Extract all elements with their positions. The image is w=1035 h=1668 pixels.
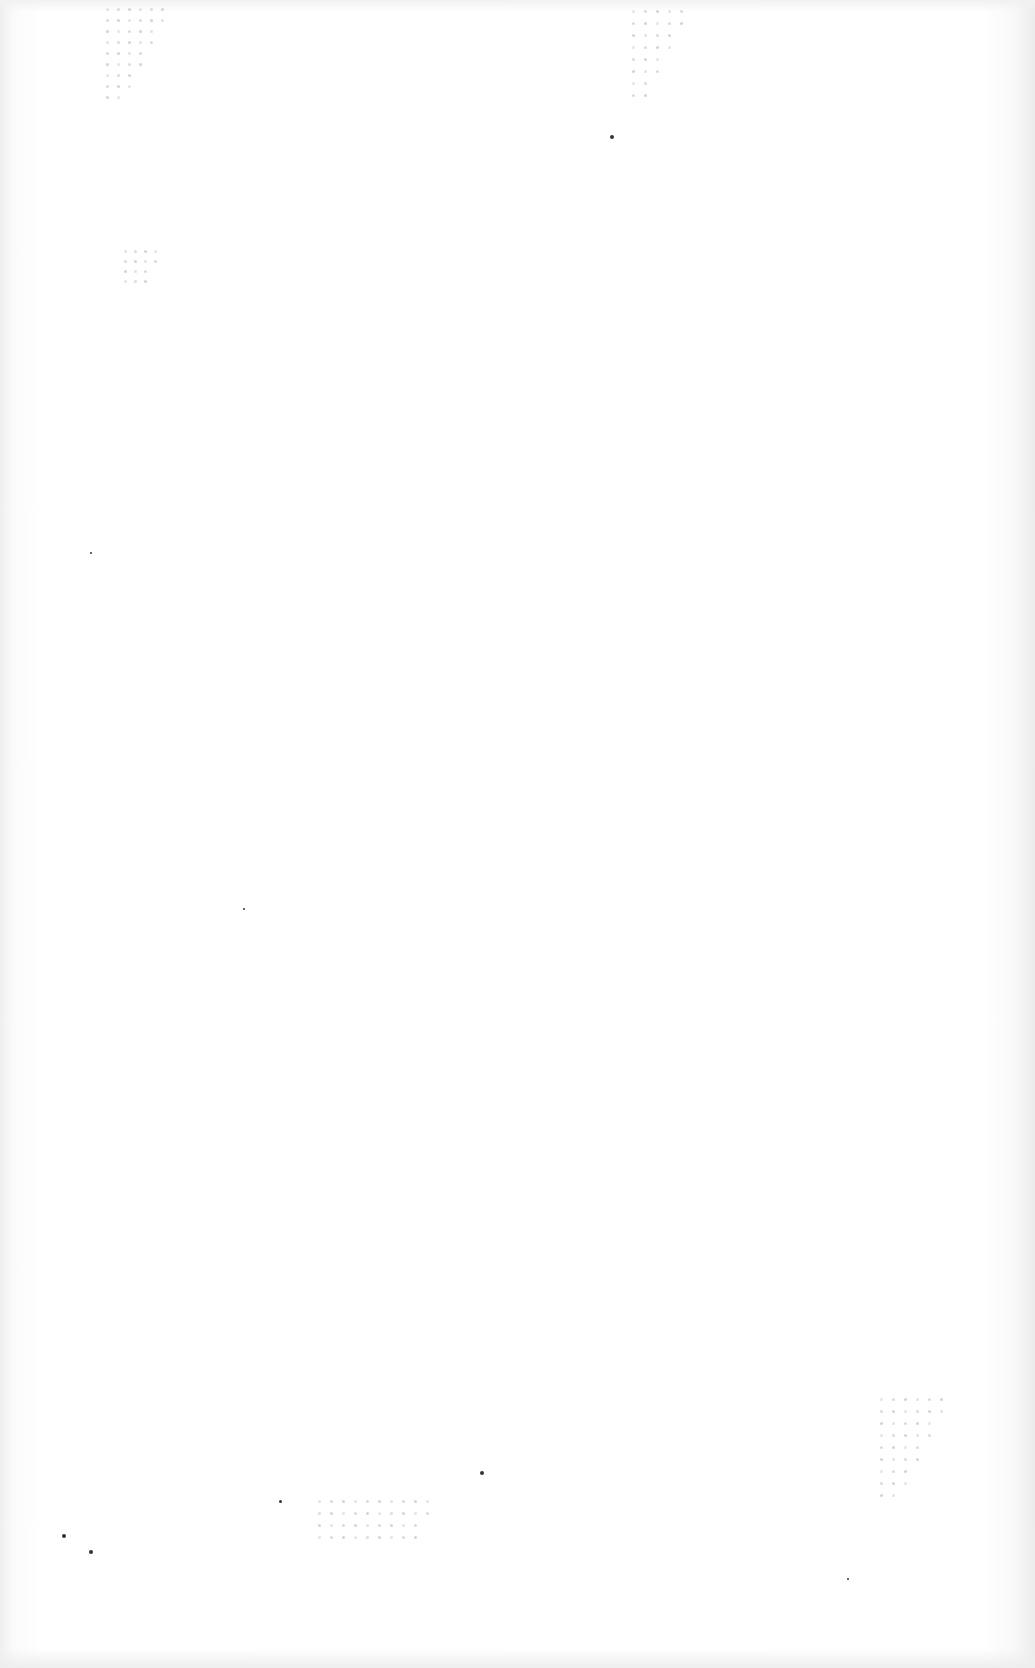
scan-speck xyxy=(847,1578,849,1580)
scan-speck xyxy=(610,135,614,139)
scan-speck xyxy=(90,552,92,554)
scan-speck xyxy=(480,1471,484,1475)
scan-speck xyxy=(279,1500,282,1503)
scan-speck xyxy=(62,1534,66,1538)
scan-speck xyxy=(243,908,245,910)
blank-document-page xyxy=(0,0,1035,1668)
scan-speck xyxy=(89,1550,93,1554)
